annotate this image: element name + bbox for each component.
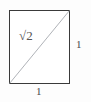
diagonal-length-label: √2: [19, 29, 33, 42]
right-side-length-label: 1: [76, 39, 82, 50]
bottom-side-length-label: 1: [36, 86, 42, 97]
geometry-diagram: √2 1 1: [0, 0, 91, 102]
figure-canvas: [0, 0, 91, 102]
